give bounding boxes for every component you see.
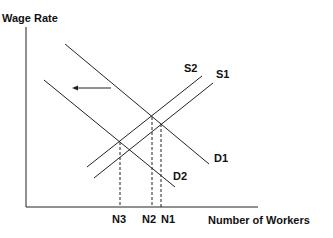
curve-label-s2: S2 [184, 62, 197, 74]
arrowhead-icon [72, 86, 78, 91]
supply-curve-s2 [87, 76, 202, 167]
labor-market-diagram [0, 0, 333, 238]
curve-label-s1: S1 [216, 68, 229, 80]
quantity-label-n2: N2 [142, 213, 156, 225]
supply-curve-s1 [94, 83, 213, 178]
quantity-label-n3: N3 [112, 213, 126, 225]
y-axis-label: Wage Rate [2, 12, 58, 24]
curve-label-d1: D1 [214, 152, 228, 164]
x-axis-label: Number of Workers [208, 214, 310, 226]
demand-curve-d2 [44, 80, 175, 187]
curve-label-d2: D2 [173, 170, 187, 182]
quantity-label-n1: N1 [161, 213, 175, 225]
